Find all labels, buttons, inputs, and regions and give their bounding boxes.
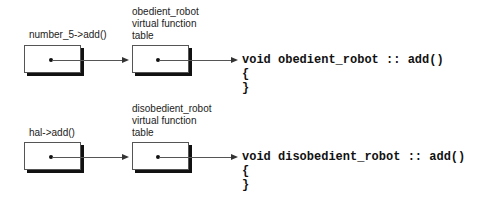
caller-label: number_5->add() xyxy=(29,29,107,40)
code-line: void disobedient_robot :: add() xyxy=(242,150,465,164)
code-line: } xyxy=(242,81,249,95)
pointer-arrow-line xyxy=(52,157,122,158)
caller-label: hal->add() xyxy=(29,127,75,138)
vtable-label-line: obedient_robot xyxy=(132,6,199,17)
code-line: { xyxy=(242,67,249,81)
pointer-arrow-line xyxy=(52,60,122,61)
code-line: } xyxy=(242,178,249,192)
vtable-label-line: table xyxy=(132,30,154,41)
vtable-label-line: table xyxy=(132,127,154,138)
code-line: void obedient_robot :: add() xyxy=(242,53,444,67)
code-line: { xyxy=(242,164,249,178)
arrowhead-icon xyxy=(231,57,238,63)
arrowhead-icon xyxy=(122,57,129,63)
vtable-label-line: virtual function xyxy=(132,18,196,29)
vtable-label-line: disobedient_robot xyxy=(132,103,212,114)
vtable-label-line: virtual function xyxy=(132,115,196,126)
arrowhead-icon xyxy=(231,154,238,160)
arrowhead-icon xyxy=(122,154,129,160)
vtable-box xyxy=(132,142,189,170)
pointer-arrow-line xyxy=(159,157,231,158)
vtable-box xyxy=(132,45,189,73)
pointer-arrow-line xyxy=(159,60,231,61)
